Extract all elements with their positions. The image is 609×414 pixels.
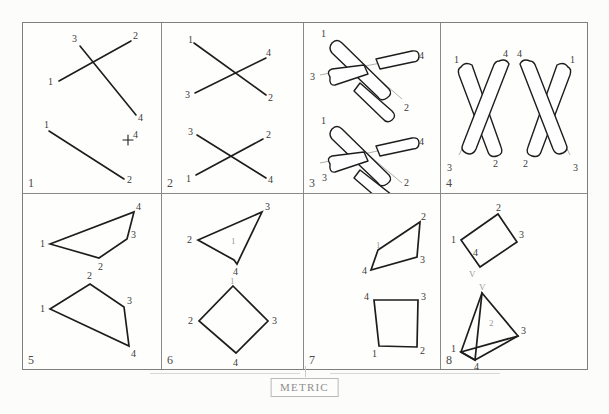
panel-7-number: 7 (309, 353, 315, 368)
panel-3-label-2a: 2 (404, 102, 409, 113)
panel-2-label-2a: 2 (268, 92, 273, 103)
panel-3[interactable]: 1 4 3 2 1 4 3 2 3 (304, 23, 440, 193)
panel-8-label-4a: 4 (473, 247, 478, 258)
panel-6[interactable]: 3 2 1 4 1 2 3 4 6 (162, 194, 303, 370)
panel-4-rod-pair-left (458, 60, 509, 157)
panel-7-label-1a: 1 (376, 240, 381, 250)
panel-5-figure: 4 3 1 2 2 3 1 4 (23, 194, 161, 370)
panel-5-label-2a: 2 (98, 261, 103, 272)
panel-1[interactable]: 3 2 1 4 1 4 2 1 (23, 23, 161, 193)
panel-6-label-1b: 1 (230, 276, 235, 286)
panel-3-label-1a: 1 (321, 28, 326, 39)
panel-2[interactable]: 1 4 3 2 3 2 1 4 2 (162, 23, 303, 193)
panel-5-number: 5 (28, 353, 34, 368)
panel-6-number: 6 (167, 353, 173, 368)
panel-2-label-3b: 3 (188, 126, 193, 137)
panel-5-label-4b: 4 (131, 348, 136, 359)
panel-8[interactable]: 2 3 1 4 V V 3 2 1 4 8 (441, 194, 589, 370)
panel-1-label-4b: 4 (133, 129, 138, 140)
panel-8-interior-label-2: 2 (489, 318, 494, 328)
panel-7-label-2a: 2 (421, 211, 426, 222)
panel-4-label-1a: 1 (454, 54, 459, 65)
panel-6-figure: 3 2 1 4 1 2 3 4 (162, 194, 303, 370)
panel-2-label-2b: 2 (266, 129, 271, 140)
panel-4-label-2a: 2 (493, 158, 498, 169)
panel-7-label-4a: 4 (362, 265, 367, 276)
panel-1-figure: 3 2 1 4 1 4 2 (23, 23, 161, 193)
panel-4-rod-pair-right (520, 60, 571, 157)
panel-7-label-3b: 3 (421, 291, 426, 302)
footer-center-tick (305, 366, 306, 377)
panel-7[interactable]: 2 1 3 4 4 3 1 2 7 (304, 194, 440, 370)
panel-6-label-2b: 2 (188, 315, 193, 326)
panel-2-label-1b: 1 (186, 173, 191, 184)
panel-8-label-3b: 3 (521, 325, 526, 336)
panel-6-interior-label-1: 1 (231, 236, 236, 246)
panel-4-label-3a: 3 (447, 162, 452, 173)
panel-grid: 3 2 1 4 1 4 2 1 1 4 3 2 3 2 (22, 22, 588, 370)
panel-5-label-3b: 3 (127, 295, 132, 306)
panel-4-figure: 1 4 3 2 4 1 2 3 (441, 23, 589, 193)
panel-1-label-1b: 1 (44, 119, 49, 130)
panel-5-label-3a: 3 (131, 229, 136, 240)
panel-6-label-2a: 2 (187, 234, 192, 245)
footer-rule-left (150, 373, 300, 374)
panel-1-label-3: 3 (72, 33, 77, 44)
panel-4-number: 4 (446, 176, 452, 191)
panel-4-label-2b: 2 (523, 158, 528, 169)
panel-8-label-1a: 1 (451, 234, 456, 245)
figure-sheet: 3 2 1 4 1 4 2 1 1 4 3 2 3 2 (0, 0, 609, 414)
panel-5-label-1b: 1 (40, 303, 45, 314)
panel-3-label-3a: 3 (310, 71, 315, 82)
panel-3-label-4a: 4 (419, 50, 424, 61)
panel-5-label-1a: 1 (40, 238, 45, 249)
panel-1-label-4a: 4 (138, 112, 143, 123)
panel-7-figure: 2 1 3 4 4 3 1 2 (304, 194, 440, 370)
panel-8-label-2a: 2 (496, 202, 501, 213)
panel-7-label-1b: 1 (372, 348, 377, 359)
panel-3-label-1b: 1 (321, 115, 326, 126)
panel-5-label-2b: 2 (87, 270, 92, 281)
panel-4[interactable]: 1 4 3 2 4 1 2 3 4 (441, 23, 589, 193)
panel-8-label-4b: 4 (474, 361, 479, 370)
panel-2-number: 2 (167, 176, 173, 191)
metric-label: METRIC (270, 378, 339, 397)
panel-8-number: 8 (446, 353, 452, 368)
panel-6-label-3a: 3 (265, 201, 270, 212)
panel-2-figure: 1 4 3 2 3 2 1 4 (162, 23, 303, 193)
panel-4-label-4b: 4 (517, 48, 522, 59)
panel-2-label-1a: 1 (188, 34, 193, 45)
panel-1-number: 1 (28, 176, 34, 191)
panel-4-label-4a: 4 (503, 48, 508, 59)
panel-8-label-3a: 3 (519, 229, 524, 240)
panel-3-number: 3 (309, 176, 315, 191)
panel-6-label-3b: 3 (272, 315, 277, 326)
panel-3-figure: 1 4 3 2 1 4 3 2 (304, 23, 440, 193)
panel-6-label-4b: 4 (233, 357, 238, 368)
panel-7-label-2b: 2 (420, 345, 425, 356)
panel-7-label-3a: 3 (420, 254, 425, 265)
panel-3-label-3b: 3 (322, 172, 327, 183)
panel-4-label-1b: 1 (570, 54, 575, 65)
panel-4-label-3b: 3 (573, 162, 578, 173)
panel-2-label-4b: 4 (268, 174, 273, 185)
panel-2-label-4a: 4 (266, 47, 271, 58)
panel-3-label-2b: 2 (404, 177, 409, 188)
panel-1-label-2a: 2 (133, 30, 138, 41)
panel-5[interactable]: 4 3 1 2 2 3 1 4 5 (23, 194, 161, 370)
panel-8-v-mark-upper: V (469, 269, 476, 279)
panel-1-label-2b: 2 (127, 174, 132, 185)
panel-7-label-4b: 4 (364, 291, 369, 302)
panel-1-label-1a: 1 (48, 76, 53, 87)
panel-2-label-3a: 3 (185, 89, 190, 100)
panel-5-label-4a: 4 (136, 201, 141, 212)
footer-rule-right (330, 373, 500, 374)
panel-8-figure: 2 3 1 4 V V 3 2 1 4 (441, 194, 589, 370)
panel-8-v-mark-lower: V (479, 282, 486, 292)
panel-3-label-4b: 4 (419, 136, 424, 147)
